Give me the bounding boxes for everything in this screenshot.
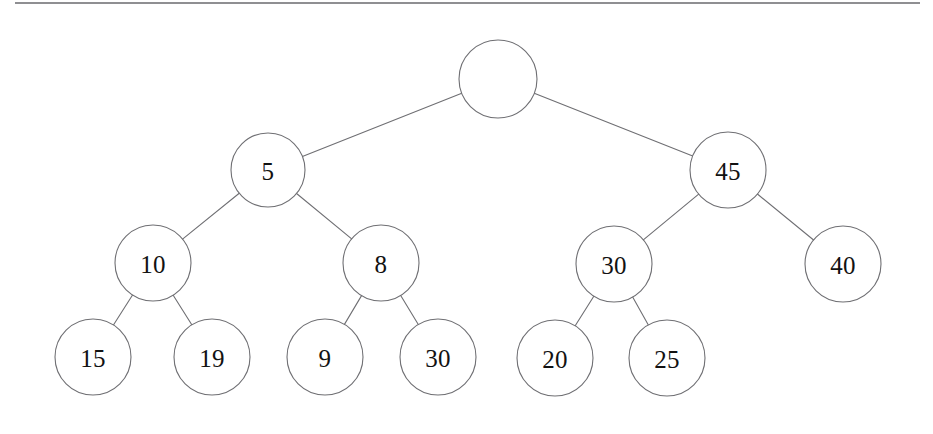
node-label-n5: 5 — [262, 158, 275, 185]
tree-node-n40[interactable]: 40 — [805, 226, 881, 302]
node-label-n20: 20 — [542, 346, 568, 373]
node-label-n9: 9 — [319, 345, 332, 372]
node-label-n8: 8 — [375, 251, 388, 278]
binary-tree-canvas: 545108304015199302025 — [0, 0, 933, 434]
tree-node-n45[interactable]: 45 — [690, 132, 766, 208]
node-label-n15: 15 — [80, 345, 106, 372]
node-label-n25: 25 — [654, 346, 680, 373]
tree-node-n10[interactable]: 10 — [115, 225, 191, 301]
tree-node-n30b[interactable]: 30 — [400, 319, 476, 395]
node-label-n30a: 30 — [601, 252, 627, 279]
node-label-n30b: 30 — [425, 345, 451, 372]
tree-node-n15[interactable]: 15 — [55, 319, 131, 395]
tree-node-n20[interactable]: 20 — [517, 320, 593, 396]
tree-node-n5[interactable]: 5 — [231, 133, 305, 207]
tree-node-n19[interactable]: 19 — [174, 319, 250, 395]
node-label-n45: 45 — [715, 158, 741, 185]
node-label-n40: 40 — [830, 252, 856, 279]
tree-node-n9[interactable]: 9 — [287, 319, 363, 395]
node-label-n19: 19 — [199, 345, 225, 372]
node-label-n10: 10 — [140, 251, 166, 278]
tree-node-n25[interactable]: 25 — [629, 320, 705, 396]
tree-node-n30a[interactable]: 30 — [576, 226, 652, 302]
node-circle-root[interactable] — [459, 40, 537, 118]
binary-tree-figure: 545108304015199302025 — [0, 0, 933, 434]
tree-node-n8[interactable]: 8 — [343, 225, 419, 301]
tree-node-root[interactable] — [459, 40, 537, 118]
